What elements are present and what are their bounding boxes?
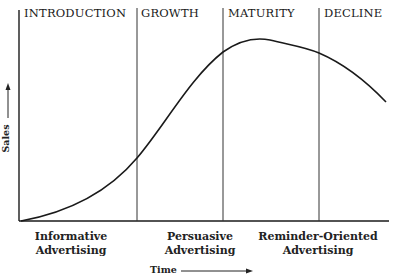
x-arrow-icon	[246, 269, 253, 274]
y-axis-label: Sales	[0, 124, 11, 152]
advertising-line1: Reminder-Oriented	[258, 230, 378, 244]
sales-curve	[21, 39, 386, 221]
advertising-line1: Informative	[18, 230, 124, 244]
advertising-line2: Advertising	[258, 244, 378, 258]
stage-maturity: MATURITY	[228, 6, 295, 20]
stage-growth: GROWTH	[141, 6, 199, 20]
advertising-line2: Advertising	[18, 244, 124, 258]
y-arrow-icon	[6, 83, 11, 90]
advertising-persuasive: Persuasive Advertising	[150, 230, 250, 258]
advertising-informative: Informative Advertising	[18, 230, 124, 258]
stage-decline: DECLINE	[324, 6, 382, 20]
advertising-reminder: Reminder-Oriented Advertising	[258, 230, 378, 258]
stage-introduction: INTRODUCTION	[24, 6, 126, 20]
advertising-line1: Persuasive	[150, 230, 250, 244]
advertising-line2: Advertising	[150, 244, 250, 258]
x-axis-label: Time	[150, 264, 177, 275]
